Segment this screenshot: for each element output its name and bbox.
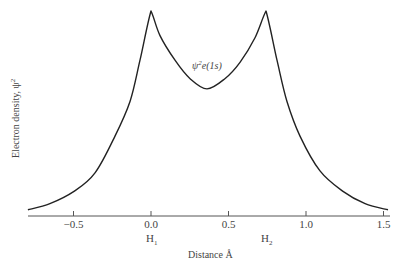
x-tick-label: 1.5 [377,218,391,230]
density-curve [28,11,388,210]
curve-annotation: ψ2e(1s) [192,59,222,72]
nucleus-label-h2: H2 [261,232,273,247]
x-axis-ticks [74,211,384,216]
plot-area: −0.50.00.51.01.5 [28,11,391,230]
x-tick-label: 0.0 [144,218,158,230]
x-axis-title: Distance Å [188,249,233,260]
electron-density-chart: −0.50.00.51.01.5 ψ2e(1s) H1 H2 Distance … [0,0,400,266]
x-tick-label: −0.5 [64,218,84,230]
x-tick-label: 1.0 [299,218,313,230]
nucleus-label-h1: H1 [146,232,158,247]
x-tick-label: 0.5 [222,218,236,230]
x-axis-tick-labels: −0.50.00.51.01.5 [64,218,391,230]
y-axis-title: Electron density, ψ2 [9,78,21,158]
